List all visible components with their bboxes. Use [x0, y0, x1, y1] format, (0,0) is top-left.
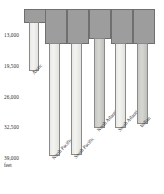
axis-tick-label-1: 13,000	[4, 32, 19, 38]
axis-tick-label-5: 39,000	[4, 155, 19, 161]
bar-cap-south-pacific	[67, 9, 89, 44]
bar-stem-south-atlantic	[115, 43, 126, 128]
ocean-depth-chart: 13,000 19,500 26,000 32,500 39,000 feet …	[0, 0, 164, 194]
bar-stem-indian	[137, 43, 148, 124]
bar-stem-south-pacific	[71, 43, 82, 155]
bar-cap-indian	[133, 9, 155, 44]
axis-tick-label-4: 32,500	[4, 124, 19, 130]
bar-cap-arctic	[24, 9, 47, 23]
axis-unit-label: feet	[4, 162, 12, 168]
bar-cap-north-atlantic	[89, 9, 111, 39]
axis-tick-label-3: 26,000	[4, 94, 19, 100]
bar-cap-south-atlantic	[111, 9, 133, 44]
bar-stem-north-pacific	[49, 43, 60, 156]
axis-tick-label-2: 19,500	[4, 63, 19, 69]
bar-cap-north-pacific	[45, 9, 67, 44]
bar-stem-north-atlantic	[94, 38, 105, 128]
